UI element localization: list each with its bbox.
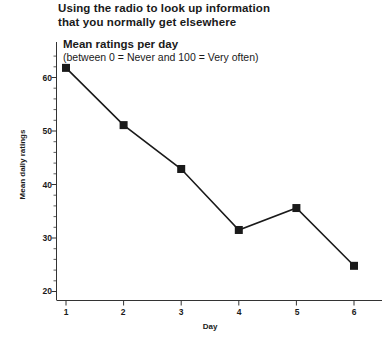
data-point-marker xyxy=(62,64,70,72)
data-point-marker xyxy=(292,204,300,212)
data-point-marker xyxy=(235,226,243,234)
plot-area xyxy=(0,0,390,342)
axes xyxy=(57,42,383,301)
chart-container: Using the radio to look up information t… xyxy=(0,0,390,342)
x-axis-ticks xyxy=(66,301,354,306)
data-point-marker xyxy=(350,262,358,270)
data-series-line xyxy=(66,68,354,266)
data-point-marker xyxy=(177,165,185,173)
data-markers xyxy=(62,64,358,270)
data-point-marker xyxy=(120,121,128,129)
y-axis-ticks xyxy=(52,56,57,291)
